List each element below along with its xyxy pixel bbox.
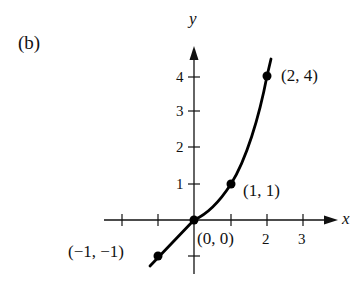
y-tick-1: 1 <box>176 177 184 192</box>
point-label-origin: (0, 0) <box>197 230 234 247</box>
x-axis-arrow-icon <box>324 216 338 225</box>
y-tick-2: 2 <box>176 140 184 155</box>
x-tick-3: 3 <box>298 232 306 247</box>
point-label-neg1-neg1: (−1, −1) <box>68 243 124 260</box>
x-axis-label: x <box>342 210 350 227</box>
point-2-4 <box>263 72 272 81</box>
point-1-1 <box>227 180 236 189</box>
point-label-2-4: (2, 4) <box>281 67 318 84</box>
point-neg1-neg1 <box>154 252 163 261</box>
point-label-1-1: (1, 1) <box>243 182 280 199</box>
y-tick-3: 3 <box>176 104 184 119</box>
x-tick-2: 2 <box>262 232 270 247</box>
y-axis-label: y <box>189 10 197 27</box>
y-axis-arrow-icon <box>190 46 199 60</box>
point-origin <box>190 216 199 225</box>
y-tick-4: 4 <box>176 70 184 85</box>
x-axis <box>104 214 338 226</box>
